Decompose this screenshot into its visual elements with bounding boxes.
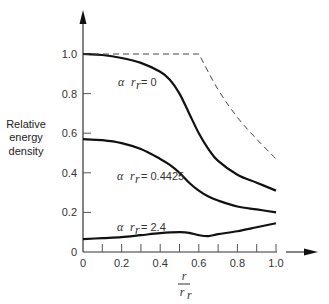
y-tick-label: 0.8 [62,88,77,100]
ylabel-line-3: density [9,145,44,157]
xlabel-denominator: r [180,285,185,299]
svg-text:= 2.4: = 2.4 [141,221,166,233]
y-tick-label: 0 [71,246,77,258]
x-tick-label: 0.6 [191,257,206,269]
svg-text:α: α [117,169,124,183]
x-ticks: 00.20.40.60.81.0 [80,244,284,269]
svg-text:= 0: = 0 [141,76,157,88]
xlabel-denominator-sub: r [187,288,192,302]
x-axis [83,249,318,256]
y-axis [80,10,87,252]
energy-density-chart: 00.20.40.60.81.0 00.20.40.60.81.0 Relati… [0,0,329,304]
y-axis-label: Relative energy density [6,118,46,157]
ylabel-line-1: Relative [6,118,46,130]
y-tick-label: 1.0 [62,48,77,60]
x-tick-label: 0.4 [153,257,168,269]
curve-label-alpha-0-4425: α r r = 0.4425 [117,169,184,186]
x-axis-label: r r r [178,269,192,302]
y-tick-label: 0.6 [62,127,77,139]
curve-label-alpha-0: α r r = 0 [118,75,157,92]
dashed-limit-curve [83,54,276,159]
ylabel-line-2: energy [9,131,43,143]
x-tick-label: 0.2 [114,257,129,269]
y-axis-arrow-icon [80,10,87,24]
x-axis-arrow-icon [304,249,318,256]
x-tick-label: 1.0 [268,257,283,269]
x-tick-label: 0 [80,257,86,269]
y-ticks: 00.20.40.60.81.0 [62,48,91,258]
svg-text:α: α [117,220,124,234]
svg-text:r: r [135,172,140,186]
svg-text:α: α [118,75,125,89]
data-series [83,54,276,239]
xlabel-numerator: r [182,269,187,283]
svg-text:= 0.4425: = 0.4425 [141,170,184,182]
curve-series-2 [83,223,276,239]
svg-text:r: r [135,223,140,237]
y-tick-label: 0.4 [62,167,77,179]
y-tick-label: 0.2 [62,206,77,218]
x-tick-label: 0.8 [230,257,245,269]
